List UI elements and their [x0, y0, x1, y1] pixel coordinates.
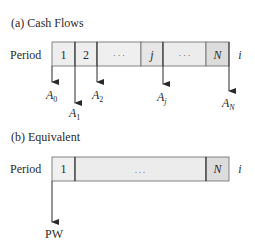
panel-b-rate-label: i	[238, 162, 241, 176]
panel-a-rate-label: i	[238, 48, 241, 62]
panel-a: (a) Cash Flows Period 1 2 · · · j · · · …	[10, 16, 242, 122]
flow-a1-label: A1	[68, 106, 80, 122]
flow-aj-label: Aj	[156, 90, 167, 106]
flow-pw-label: PW	[45, 227, 64, 241]
panel-b: (b) Equivalent Period 1 . . . N i PW	[10, 130, 242, 241]
cell-2-label: 2	[83, 48, 89, 62]
cell-ellipsis-1-label: · · ·	[113, 51, 125, 60]
cell-ellipsis-2-label: · · ·	[179, 51, 191, 60]
cell-b-n-label: N	[212, 162, 222, 176]
panel-b-title: (b) Equivalent	[11, 130, 81, 144]
cell-1-label: 1	[61, 48, 67, 62]
panel-a-period-label: Period	[10, 48, 41, 62]
panel-a-title: (a) Cash Flows	[11, 16, 84, 30]
cell-n-label: N	[212, 48, 222, 62]
cell-b-ellipsis-label: . . .	[135, 166, 145, 175]
flow-a0-label: A0	[45, 88, 57, 104]
flow-an-label: AN	[221, 96, 235, 112]
cell-b-1-label: 1	[61, 162, 67, 176]
panel-b-period-label: Period	[10, 162, 41, 176]
flow-a2-label: A2	[91, 88, 103, 104]
cash-flow-diagram: (a) Cash Flows Period 1 2 · · · j · · · …	[0, 0, 255, 246]
